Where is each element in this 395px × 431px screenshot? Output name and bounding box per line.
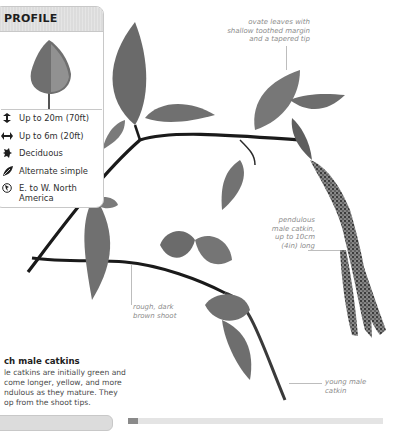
profile-facts-list: Up to 20m (70ft) Up to 6m (20ft) Deciduo… — [1, 113, 101, 208]
profile-panel: PROFILE Up to 20m (70ft) Up to 6m (20ft)… — [0, 6, 104, 208]
fact-distribution-text: E. to W. North America — [19, 183, 101, 203]
annotation-catkin-line: (4in) long — [255, 242, 315, 251]
annotation-shoot-leader — [131, 265, 132, 305]
globe-region-icon — [1, 183, 13, 193]
annotation-young-catkin-line: young male — [325, 378, 385, 387]
fact-distribution: E. to W. North America — [1, 183, 101, 203]
fact-leaf-type: Deciduous — [1, 148, 101, 158]
fact-leaf-arrangement-text: Alternate simple — [19, 166, 88, 176]
annotation-leaves-line: shallow toothed margin — [220, 27, 310, 36]
annotation-leaves-line: and a tapered tip — [220, 35, 310, 44]
fact-height-text: Up to 20m (70ft) — [19, 113, 89, 123]
fact-leaf-arrangement: Alternate simple — [1, 166, 101, 176]
profile-title: PROFILE — [4, 12, 57, 25]
fact-height: Up to 20m (70ft) — [1, 113, 101, 123]
caption-line: ndulous as they mature. They — [4, 388, 144, 398]
deciduous-leaf-icon — [1, 148, 13, 158]
annotation-leaves-leader — [286, 46, 287, 70]
next-panel-header — [0, 415, 113, 431]
annotation-catkin: pendulous male catkin, up to 10cm (4in) … — [255, 216, 315, 250]
annotation-young-catkin: young male catkin — [325, 378, 385, 395]
caption-line: le catkins are initially green and — [4, 368, 144, 378]
annotation-shoot-line: rough, dark — [133, 303, 203, 312]
section-divider-bar — [128, 418, 383, 424]
annotation-leaves: ovate leaves with shallow toothed margin… — [220, 18, 310, 44]
annotation-young-catkin-leader — [289, 383, 322, 384]
annotation-leaves-line: ovate leaves with — [220, 18, 310, 27]
fact-leaf-type-text: Deciduous — [19, 148, 63, 158]
caption-line: op from the shoot tips. — [4, 398, 144, 408]
spread-arrows-icon — [1, 131, 13, 141]
height-arrows-icon — [1, 113, 13, 123]
tree-silhouette-image — [1, 32, 102, 110]
caption-line: come longer, yellow, and more — [4, 378, 144, 388]
caption-title: ch male catkins — [4, 356, 80, 366]
fact-spread-text: Up to 6m (20ft) — [19, 131, 84, 141]
annotation-young-catkin-line: catkin — [325, 387, 385, 396]
section-marker — [128, 418, 138, 424]
tree-icon — [1, 32, 102, 109]
leaf-arrangement-icon — [1, 166, 13, 176]
caption-body: le catkins are initially green and come … — [4, 368, 144, 408]
annotation-shoot-line: brown shoot — [133, 312, 203, 321]
annotation-catkin-leader — [308, 250, 340, 251]
annotation-catkin-line: pendulous — [255, 216, 315, 225]
fact-spread: Up to 6m (20ft) — [1, 131, 101, 141]
annotation-catkin-line: up to 10cm — [255, 233, 315, 242]
annotation-catkin-line: male catkin, — [255, 225, 315, 234]
annotation-shoot: rough, dark brown shoot — [133, 303, 203, 320]
